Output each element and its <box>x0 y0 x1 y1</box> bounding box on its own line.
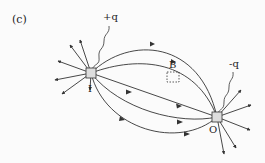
panel-label: (c) <box>12 14 27 25</box>
region-b-box <box>167 72 179 82</box>
region-label: B <box>169 60 176 70</box>
positive-wire <box>91 26 109 71</box>
sink-node-box <box>212 112 222 122</box>
positive-charge-label: +q <box>103 12 118 22</box>
negative-charge-label: -q <box>229 59 239 69</box>
sink-node-label: O <box>209 125 217 135</box>
source-node-box <box>86 68 96 78</box>
connecting-field-lines <box>91 50 217 133</box>
field-diagram <box>0 0 265 163</box>
source-node-label: I <box>88 84 92 94</box>
source-radial-lines <box>55 40 91 94</box>
